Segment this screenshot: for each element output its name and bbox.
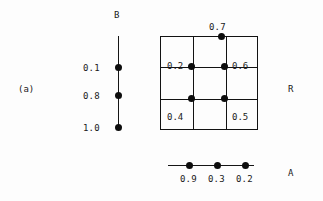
axis-label-r: R (288, 84, 293, 94)
grid-cell-value-top-left: 0.2 (167, 61, 183, 71)
grid-cell-value-top-right: 0.6 (232, 61, 248, 71)
axis-label-a: A (288, 168, 293, 178)
grid-line-vertical-1 (193, 37, 194, 129)
a-axis-node-2 (214, 162, 221, 169)
b-axis-tick-label-1: 0.1 (83, 63, 100, 73)
b-axis-node-1 (115, 64, 122, 71)
axis-label-b: B (114, 10, 119, 20)
a-axis-tick-label-2: 0.3 (208, 174, 225, 184)
grid-node-top-edge (218, 33, 225, 40)
b-axis-line (118, 36, 119, 130)
grid-line-horizontal-2 (161, 99, 257, 100)
a-axis-node-3 (242, 162, 249, 169)
a-axis-tick-label-3: 0.2 (236, 174, 253, 184)
a-axis-node-1 (186, 162, 193, 169)
grid-node-low-left (188, 95, 195, 102)
b-axis-node-2 (115, 92, 122, 99)
grid-top-edge-label: 0.7 (209, 22, 226, 32)
grid-cell-value-bottom-right: 0.5 (232, 112, 248, 122)
figure-panel: (a) B 0.1 0.8 1.0 0.2 0.6 0.4 0.5 0.7 R … (0, 0, 323, 201)
grid-node-mid-right (221, 63, 228, 70)
b-axis-node-3 (115, 124, 122, 131)
grid-node-mid-left (188, 63, 195, 70)
b-axis-tick-label-2: 0.8 (83, 91, 100, 101)
panel-tag: (a) (18, 84, 34, 94)
a-axis-tick-label-1: 0.9 (180, 174, 197, 184)
grid-cell-value-bottom-left: 0.4 (167, 112, 183, 122)
grid-line-vertical-2 (226, 37, 227, 129)
b-axis-tick-label-3: 1.0 (83, 123, 100, 133)
grid-node-low-right (221, 95, 228, 102)
